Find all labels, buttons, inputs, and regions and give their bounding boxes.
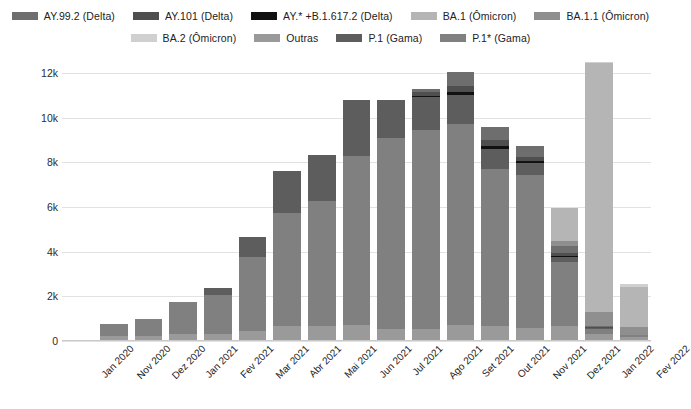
x-axis-tick-label: Mar 2021 — [273, 343, 311, 381]
bar-segment — [585, 63, 613, 312]
bar-mai-2021[interactable] — [308, 155, 336, 341]
y-axis-tick-label: 12k — [0, 67, 58, 79]
y-axis-tick-label: 2k — [0, 290, 58, 302]
legend-label: BA.1.1 (Ômicron) — [566, 11, 649, 22]
bar-jun-2021[interactable] — [343, 100, 371, 341]
x-axis-tick-label: Out 2021 — [515, 343, 552, 380]
y-axis-tick-label: 0 — [0, 335, 58, 347]
x-axis-tick-label: Jan 2020 — [99, 343, 136, 380]
x-axis-tick-label: Nov 2021 — [550, 343, 588, 381]
bar-segment — [308, 201, 336, 326]
bar-segment — [273, 326, 301, 341]
bar-abr-2021[interactable] — [273, 171, 301, 341]
y-axis-ticks: 12k10k8k6k4k2k0 — [0, 73, 58, 341]
x-axis-line — [62, 340, 651, 341]
bar-segment — [551, 246, 579, 253]
bar-segment — [481, 169, 509, 326]
chart-legend: AY.99.2 (Delta)AY.101 (Delta)AY.* +B.1.6… — [0, 0, 661, 56]
legend-label: AY.99.2 (Delta) — [44, 11, 115, 22]
bar-segment — [412, 97, 440, 129]
bar-segment — [273, 213, 301, 326]
legend-label: AY.101 (Delta) — [165, 11, 233, 22]
bar-segment — [620, 287, 648, 327]
bar-jul-2021[interactable] — [377, 100, 405, 341]
bar-nov-2021[interactable] — [516, 146, 544, 341]
y-axis-tick-label: 10k — [0, 112, 58, 124]
legend-item[interactable]: AY.* +B.1.617.2 (Delta) — [251, 11, 393, 22]
legend-row-1: AY.99.2 (Delta)AY.101 (Delta)AY.* +B.1.6… — [0, 8, 661, 24]
bar-segment — [447, 95, 475, 124]
bar-segment — [308, 155, 336, 201]
bar-set-2021[interactable] — [447, 72, 475, 341]
legend-label: Outras — [286, 33, 318, 44]
bar-jan-2021[interactable] — [169, 302, 197, 341]
bar-segment — [273, 171, 301, 213]
bar-segment — [343, 156, 371, 325]
bar-fev-2021[interactable] — [204, 288, 232, 341]
bar-segment — [620, 327, 648, 335]
legend-item[interactable]: P.1 (Gama) — [336, 33, 422, 44]
legend-label: P.1 (Gama) — [368, 33, 422, 44]
bar-segment — [516, 328, 544, 341]
bar-series-container — [62, 73, 651, 341]
bar-segment — [412, 130, 440, 329]
x-axis-tick-label: Fev 2021 — [238, 343, 275, 380]
x-axis-tick-label: Ago 2021 — [446, 343, 484, 381]
bar-segment — [551, 208, 579, 240]
x-axis-tick-label: Fev 2022 — [654, 343, 691, 380]
legend-label: BA.2 (Ômicron) — [163, 33, 237, 44]
legend-swatch-icon — [440, 34, 466, 42]
bar-segment — [516, 175, 544, 328]
legend-row-2: BA.2 (Ômicron)OutrasP.1 (Gama)P.1* (Gama… — [0, 30, 661, 46]
x-axis-tick-label: Nov 2020 — [135, 343, 173, 381]
legend-item[interactable]: AY.101 (Delta) — [133, 11, 233, 22]
legend-label: AY.* +B.1.617.2 (Delta) — [283, 11, 393, 22]
y-axis-tick-label: 4k — [0, 246, 58, 258]
legend-swatch-icon — [251, 12, 277, 20]
bar-segment — [343, 325, 371, 341]
bar-out-2021[interactable] — [481, 127, 509, 341]
legend-swatch-icon — [254, 34, 280, 42]
bar-segment — [239, 237, 267, 257]
bar-segment — [343, 100, 371, 156]
bar-segment — [447, 86, 475, 93]
legend-swatch-icon — [131, 34, 157, 42]
x-axis-tick-label: Jun 2021 — [377, 343, 414, 380]
x-axis-tick-label: Jul 2021 — [410, 343, 445, 378]
bar-segment — [447, 72, 475, 86]
legend-item[interactable]: BA.1 (Ômicron) — [411, 11, 517, 22]
bar-segment — [447, 124, 475, 325]
bar-segment — [481, 326, 509, 341]
legend-item[interactable]: BA.1.1 (Ômicron) — [534, 11, 649, 22]
bar-dez-2021[interactable] — [551, 208, 579, 341]
bar-segment — [377, 138, 405, 329]
legend-item[interactable]: P.1* (Gama) — [440, 33, 530, 44]
bar-mar-2021[interactable] — [239, 236, 267, 341]
bar-segment — [551, 326, 579, 341]
x-axis-tick-label: Jan 2021 — [203, 343, 240, 380]
bar-nov-2020[interactable] — [100, 324, 128, 341]
legend-label: BA.1 (Ômicron) — [443, 11, 517, 22]
bar-fev-2022[interactable] — [620, 284, 648, 341]
bar-segment — [481, 149, 509, 169]
bar-dez-2020[interactable] — [135, 319, 163, 341]
y-axis-tick-label: 6k — [0, 201, 58, 213]
bar-segment — [169, 302, 197, 334]
x-axis-tick-label: Mai 2021 — [342, 343, 379, 380]
bar-segment — [239, 257, 267, 332]
bar-segment — [204, 295, 232, 333]
bar-ago-2021[interactable] — [412, 89, 440, 341]
legend-item[interactable]: AY.99.2 (Delta) — [12, 11, 115, 22]
plot-area — [62, 73, 651, 341]
legend-swatch-icon — [336, 34, 362, 42]
bar-segment — [204, 288, 232, 296]
legend-item[interactable]: BA.2 (Ômicron) — [131, 33, 237, 44]
y-axis-tick-label: 8k — [0, 156, 58, 168]
legend-item[interactable]: Outras — [254, 33, 318, 44]
x-axis-tick-label: Dez 2020 — [169, 343, 207, 381]
bar-segment — [308, 326, 336, 341]
legend-swatch-icon — [411, 12, 437, 20]
bar-jan-2022[interactable] — [585, 62, 613, 341]
bar-segment — [551, 262, 579, 326]
